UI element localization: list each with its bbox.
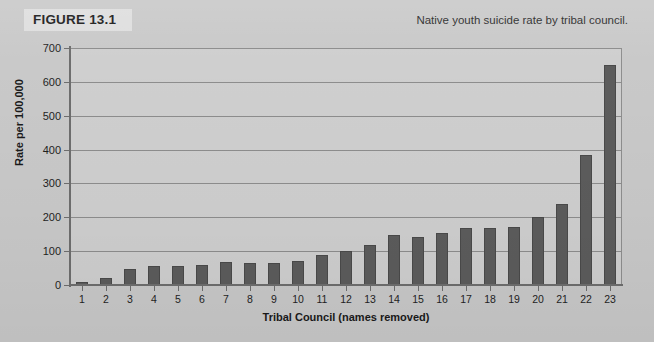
bar — [388, 235, 400, 285]
bar — [172, 266, 184, 285]
x-axis-tick-label: 21 — [556, 293, 568, 305]
x-axis-line — [69, 284, 623, 286]
y-axis-tick-label: 300 — [43, 177, 61, 189]
bar — [508, 227, 520, 285]
bar — [244, 263, 256, 285]
bar — [460, 228, 472, 285]
figure-screenshot: FIGURE 13.1 Native youth suicide rate by… — [0, 0, 654, 342]
y-axis-tick-label: 0 — [55, 279, 61, 291]
bar — [292, 261, 304, 285]
y-axis-tick-label: 400 — [43, 144, 61, 156]
x-axis-tick-label: 8 — [247, 293, 253, 305]
x-axis-tick-label: 12 — [340, 293, 352, 305]
gridline — [70, 48, 622, 49]
bar — [364, 245, 376, 285]
x-axis-tick-label: 18 — [484, 293, 496, 305]
x-axis-tick-label: 4 — [151, 293, 157, 305]
figure-number-label: FIGURE 13.1 — [33, 12, 116, 27]
bar — [196, 265, 208, 285]
y-axis-tick-label: 600 — [43, 76, 61, 88]
bar — [124, 269, 136, 285]
x-axis-tick-label: 10 — [292, 293, 304, 305]
bar-chart-plot-area: 0100200300400500600700123456789101112131… — [70, 48, 622, 285]
x-axis-tick-label: 20 — [532, 293, 544, 305]
bar — [556, 204, 568, 285]
gridline — [70, 183, 622, 184]
y-axis-tick-label: 500 — [43, 110, 61, 122]
y-axis-tick-label: 200 — [43, 211, 61, 223]
bar — [220, 262, 232, 285]
y-axis-line — [69, 46, 71, 287]
x-axis-tick-label: 16 — [436, 293, 448, 305]
x-axis-tick-label: 19 — [508, 293, 520, 305]
x-axis-tick-label: 9 — [271, 293, 277, 305]
y-axis-title: Rate per 100,000 — [13, 79, 25, 166]
figure-caption: Native youth suicide rate by tribal coun… — [416, 14, 628, 26]
bar — [316, 255, 328, 285]
gridline — [70, 82, 622, 83]
x-axis-tick-label: 13 — [364, 293, 376, 305]
bar — [532, 217, 544, 285]
bar — [340, 251, 352, 285]
gridline — [70, 150, 622, 151]
x-axis-tick-label: 17 — [460, 293, 472, 305]
x-axis-tick-label: 11 — [317, 293, 328, 305]
y-axis-tick-label: 700 — [43, 42, 61, 54]
x-axis-title: Tribal Council (names removed) — [70, 311, 622, 323]
bar — [604, 65, 616, 285]
x-axis-tick-label: 3 — [127, 293, 133, 305]
gridline — [70, 116, 622, 117]
x-axis-tick-label: 7 — [223, 293, 229, 305]
bar — [580, 155, 592, 285]
x-axis-tick-label: 6 — [199, 293, 205, 305]
x-axis-tick-label: 5 — [175, 293, 181, 305]
x-axis-tick-label: 23 — [604, 293, 616, 305]
y-axis-tick-label: 100 — [43, 245, 61, 257]
x-axis-tick-label: 2 — [103, 293, 109, 305]
bar — [148, 266, 160, 285]
bar — [268, 263, 280, 285]
x-axis-tick-label: 22 — [580, 293, 592, 305]
x-axis-tick-label: 15 — [412, 293, 424, 305]
bar — [484, 228, 496, 285]
x-axis-tick-label: 1 — [79, 293, 85, 305]
x-axis-tick-label: 14 — [388, 293, 400, 305]
bar — [412, 237, 424, 285]
bar — [436, 233, 448, 285]
